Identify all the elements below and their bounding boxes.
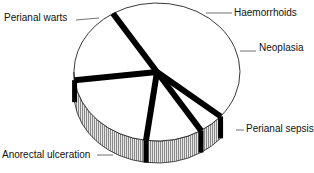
label-neoplasia: Neoplasia xyxy=(259,42,304,53)
label-haemorrhoids: Haemorrhoids xyxy=(234,7,297,18)
label-anorectal-ulceration: Anorectal ulceration xyxy=(2,149,90,160)
pie-chart: Perianal wartsHaemorrhoidsNeoplasiaPeria… xyxy=(0,0,314,173)
label-perianal-sepsis: Perianal sepsis xyxy=(246,123,314,134)
leader-line xyxy=(76,18,99,20)
label-perianal-warts: Perianal warts xyxy=(4,12,67,23)
